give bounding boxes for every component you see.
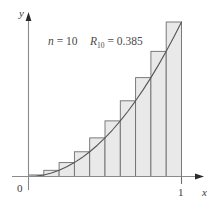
riemann-sum-figure: y x 0 1 n = 10 R10 = 0.385 <box>0 0 217 210</box>
riemann-rectangle <box>166 22 181 177</box>
riemann-rectangle <box>74 152 89 177</box>
origin-label: 0 <box>17 182 23 194</box>
y-axis-label: y <box>18 7 24 19</box>
x-axis-label: x <box>201 186 207 198</box>
annotation-group: n = 10 R10 = 0.385 <box>48 35 143 50</box>
riemann-rectangle <box>90 138 105 177</box>
riemann-rectangle <box>120 101 135 177</box>
annotation-n-value: 10 <box>66 35 78 47</box>
annotation-r-var: R <box>89 35 97 47</box>
annotation-r: R10 = 0.385 <box>89 35 143 50</box>
riemann-rectangle <box>136 78 151 177</box>
riemann-sum-plot: y x 0 1 n = 10 R10 = 0.385 <box>0 0 217 210</box>
annotation-n-eq: = <box>54 35 66 47</box>
x-tick-label-1: 1 <box>178 186 184 198</box>
riemann-rectangle <box>151 51 166 176</box>
annotation-n: n = 10 <box>48 35 78 47</box>
y-axis-arrow-icon <box>26 12 32 21</box>
annotation-r-value: 0.385 <box>117 35 143 47</box>
annotation-r-eq: = <box>105 35 117 47</box>
x-axis-arrow-icon <box>195 174 204 180</box>
